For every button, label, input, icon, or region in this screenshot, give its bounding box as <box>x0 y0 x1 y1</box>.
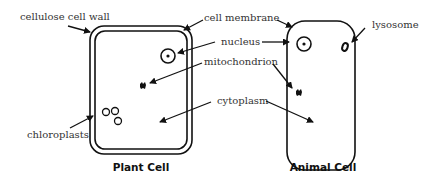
arrow-cell-membrane-animal <box>277 20 292 27</box>
animal-lysosome <box>341 42 349 51</box>
arrow-cell-wall <box>68 26 90 32</box>
plant-cell-wall-outer <box>90 26 192 154</box>
label-cell-membrane: cell membrane <box>204 12 280 23</box>
arrow-nucleus-plant <box>178 42 215 53</box>
label-chloroplasts: chloroplasts <box>27 129 89 140</box>
animal-cell-title: Animal Cell <box>290 161 357 173</box>
plant-chloroplast-3 <box>115 118 122 125</box>
arrow-cytoplasm-plant <box>160 102 211 122</box>
label-nucleus: nucleus <box>221 36 260 47</box>
plant-mitochondrion <box>140 82 146 89</box>
cell-diagram: cellulose cell wall cell membrane nucleu… <box>0 0 432 180</box>
plant-cell-membrane-inner <box>95 31 187 149</box>
arrow-cytoplasm-animal <box>266 101 313 122</box>
label-lysosome: lysosome <box>372 19 419 30</box>
label-cytoplasm: cytoplasm <box>217 95 269 106</box>
label-cellulose-cell-wall: cellulose cell wall <box>20 11 110 22</box>
plant-cell <box>90 26 192 154</box>
plant-cell-title: Plant Cell <box>113 161 170 173</box>
plant-nucleolus <box>166 54 169 57</box>
label-mitochondrion: mitochondrion <box>204 56 279 67</box>
arrow-mitochondrion-plant <box>150 63 202 83</box>
arrow-cell-membrane-plant <box>184 20 203 30</box>
arrow-mitochondrion-animal <box>273 64 292 88</box>
animal-nucleolus <box>302 42 305 45</box>
animal-mitochondrion <box>296 89 302 96</box>
animal-cell <box>287 21 355 170</box>
plant-chloroplast-1 <box>103 109 110 116</box>
plant-chloroplast-2 <box>112 108 119 115</box>
